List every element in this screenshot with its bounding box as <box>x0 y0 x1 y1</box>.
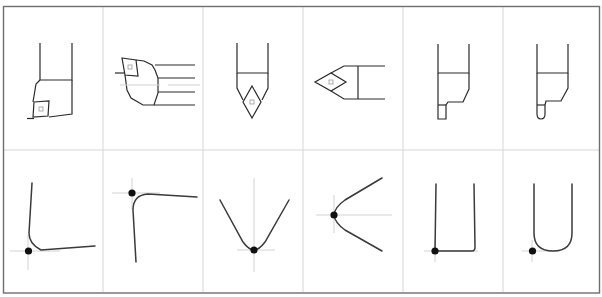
reference-point-icon <box>250 246 257 253</box>
tool-6-grooving-tool-round-icon <box>537 44 568 119</box>
tool-2-boring-bar-icon <box>115 58 200 105</box>
reference-point-icon <box>431 247 438 254</box>
reference-point-icon <box>25 247 32 254</box>
profile-5-square-groove-icon <box>424 184 478 262</box>
reference-point-icon <box>128 189 135 196</box>
profile-2-corner-radius-icon <box>112 178 197 262</box>
tool-4-diamond-insert-horizontal-icon <box>315 66 385 99</box>
tool-diagram <box>0 0 602 297</box>
tool-5-grooving-tool-square-icon <box>438 44 469 119</box>
profile-6-round-groove-icon <box>522 184 572 262</box>
grid-lines <box>4 7 600 292</box>
reference-point-icon <box>529 247 536 254</box>
reference-point-icon <box>330 211 337 218</box>
profile-3-v-nose-downward-icon <box>220 178 289 272</box>
tool-3-diamond-insert-vertical-icon <box>237 43 268 118</box>
profile-4-v-nose-leftward-icon <box>316 178 392 251</box>
tool-1-square-insert-turning-tool-icon <box>27 43 72 119</box>
profile-1-corner-radius-icon <box>10 183 95 270</box>
